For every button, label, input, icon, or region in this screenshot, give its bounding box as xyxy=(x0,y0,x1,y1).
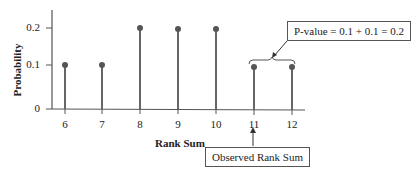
x-tick-label: 10 xyxy=(211,118,222,130)
brace-icon xyxy=(249,57,295,64)
x-tick-label: 8 xyxy=(137,118,143,130)
x-tick-label: 9 xyxy=(175,118,181,130)
x-tick-label: 7 xyxy=(99,118,105,130)
stems xyxy=(65,28,292,110)
y-axis-label: Probability xyxy=(11,35,23,105)
x-axis-label: Rank Sum xyxy=(155,137,205,149)
x-tick-label: 12 xyxy=(287,118,298,130)
p-value-annotation: P-value = 0.1 + 0.1 = 0.2 xyxy=(287,21,411,41)
x-tick-label: 11 xyxy=(249,118,260,130)
y-tick-label: 0.2 xyxy=(10,21,40,33)
observed-rank-sum-annotation: Observed Rank Sum xyxy=(205,147,310,167)
x-tick-label: 6 xyxy=(62,118,68,130)
